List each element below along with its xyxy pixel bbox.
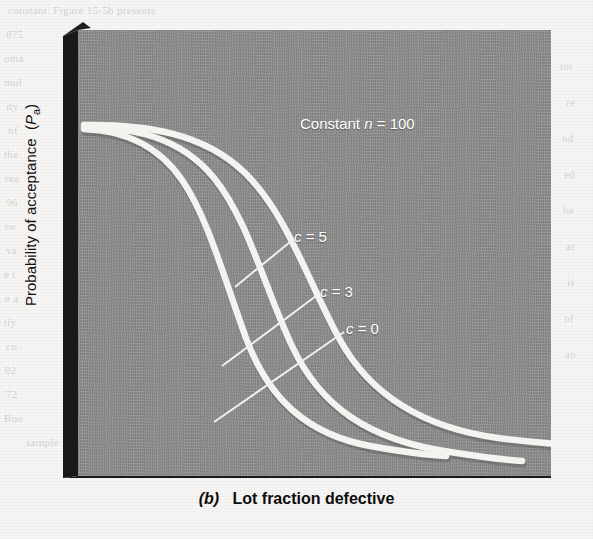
plot-block: Constant n = 100 c = 5 c = 3 c = 0 [63,22,551,478]
bleed-through-text: 875 [6,28,23,40]
bleed-through-text: he [563,204,574,216]
curve-label-c3: c = 3 [320,283,353,300]
curve-label-symbol: c [346,320,354,337]
bleed-through-text: oma [4,52,24,64]
bleed-through-text: is [567,276,575,288]
caption-text: Lot fraction defective [232,490,394,507]
bleed-through-text: the [4,148,18,160]
bleed-through-text: rea [5,172,19,184]
bleed-through-text: tw [5,220,17,232]
plot-panel: Constant n = 100 c = 5 c = 3 c = 0 [78,30,551,476]
bleed-through-text: mul [4,76,22,88]
bleed-through-text: constant. Figure 15-5b presents [8,4,155,16]
bleed-through-text: of [564,312,574,324]
bleed-through-text: nd [562,132,574,144]
y-axis-label: Probability of acceptance (Pa) [22,65,42,345]
bleed-through-text: e a [5,292,18,304]
bleed-through-text: ar [566,240,575,252]
curve-label-value: = 3 [328,283,353,300]
bleed-through-text: 96 [6,196,18,208]
curve-c3 [84,127,522,461]
curve-c0 [84,129,446,456]
bleed-through-text: 72 [6,388,18,400]
bleed-through-text: co [6,340,17,352]
bleed-through-text: Boo [4,412,23,424]
bleed-through-text: ity [6,100,19,112]
x-axis-caption: (b) Lot fraction defective [0,490,593,508]
curve-label-value: = 5 [302,228,327,245]
leader-line-c0 [214,332,344,422]
bleed-through-text: e t [4,268,16,280]
curve-label-c5: c = 5 [294,228,327,245]
curve-label-value: = 0 [354,320,379,337]
bleed-through-text: va [6,244,17,256]
bleed-through-text: 02 [5,364,17,376]
annotation-constant-n: Constant n = 100 [300,115,415,132]
bleed-through-text: an [565,348,576,360]
caption-prefix: (b) [199,490,219,507]
bleed-through-text: tot [560,60,573,72]
curve-label-symbol: c [320,283,328,300]
curve-label-symbol: c [294,228,302,245]
curve-label-c0: c = 0 [346,320,379,337]
figure-container: constant. Figure 15-5b presents875omamul… [0,0,593,539]
bleed-through-text: re [566,96,575,108]
bleed-through-text: nf [8,124,18,136]
curve-c5 [84,125,551,444]
bleed-through-text: tly [4,316,17,328]
bleed-through-text: ed [564,168,575,180]
oc-curves-svg [78,30,551,476]
